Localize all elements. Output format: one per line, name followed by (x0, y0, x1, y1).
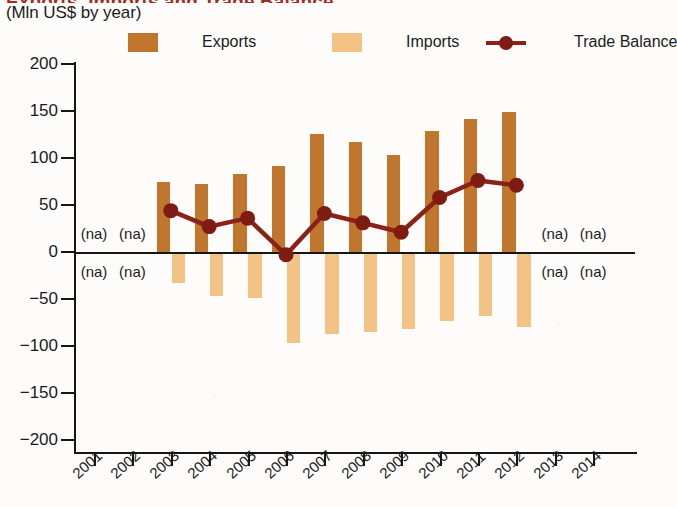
trade-balance-point (471, 173, 486, 188)
trade-balance-point (394, 225, 409, 240)
trade-balance-line (0, 55, 649, 455)
trade-balance-point (317, 206, 332, 221)
legend-label-imports: Imports (406, 33, 459, 51)
trade-balance-point (163, 203, 178, 218)
trade-balance-polyline (171, 181, 517, 255)
imports-swatch-icon (332, 33, 362, 52)
legend-item-trade-balance: Trade Balance (486, 31, 677, 53)
legend-item-exports: Exports (128, 31, 256, 53)
trade-balance-point (202, 219, 217, 234)
legend-label-exports: Exports (202, 33, 256, 51)
exports-swatch-icon (128, 33, 158, 52)
chart-legend: Exports Imports Trade Balance (128, 31, 643, 53)
trade-balance-point (240, 211, 255, 226)
x-axis: 2001200220032004200520062007200820092010… (0, 452, 649, 507)
trade-balance-line-marker-icon (486, 33, 526, 52)
legend-item-imports: Imports (332, 31, 459, 53)
trade-balance-point (279, 247, 294, 262)
trade-balance-point (509, 178, 524, 193)
chart-subtitle: (Mln US$ by year) (6, 3, 141, 23)
trade-balance-point (432, 190, 447, 205)
legend-label-trade-balance: Trade Balance (574, 33, 677, 51)
plot-area: 200150100500−50−100−150−200 (na)(na)(na)… (0, 55, 649, 455)
trade-balance-point (355, 215, 370, 230)
